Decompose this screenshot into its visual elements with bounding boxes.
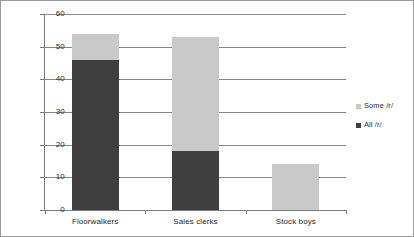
category-label: Floorwalkers	[45, 217, 145, 226]
category-axis-tick	[145, 210, 146, 214]
bar-segment[interactable]	[72, 60, 119, 210]
legend-item-some[interactable]: Some /r/	[356, 102, 414, 110]
bar-floorwalkers[interactable]	[72, 34, 119, 210]
bar-segment[interactable]	[172, 37, 219, 151]
category-axis-tick	[246, 210, 247, 214]
legend-swatch-some-icon	[356, 104, 361, 109]
category-label: Sales clerks	[145, 217, 245, 226]
bar-segment[interactable]	[272, 164, 319, 210]
plot-area	[45, 14, 346, 210]
category-label: Stock boys	[246, 217, 346, 226]
bar-sales-clerks[interactable]	[172, 37, 219, 210]
bar-segment[interactable]	[172, 151, 219, 210]
legend-label-some: Some /r/	[364, 102, 393, 110]
category-axis-tick	[346, 210, 347, 214]
legend-label-all: All /r/	[364, 121, 382, 129]
bar-stock-boys[interactable]	[272, 164, 319, 210]
bar-segment[interactable]	[72, 34, 119, 60]
legend-swatch-all-icon	[356, 123, 361, 128]
chart-legend: Some /r/ All /r/	[356, 102, 414, 140]
legend-item-all[interactable]: All /r/	[356, 121, 414, 129]
category-axis-tick	[45, 210, 46, 214]
chart-container: 0102030405060 FloorwalkersSales clerksSt…	[0, 0, 414, 237]
category-axis-line	[45, 210, 346, 211]
